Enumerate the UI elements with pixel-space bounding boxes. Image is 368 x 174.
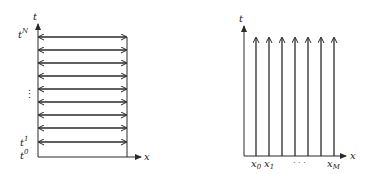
label-x1-sub: 1: [270, 163, 274, 171]
left-diagram: t x tN ⋮ t1 t0: [18, 11, 150, 162]
label-x1: x1: [264, 158, 274, 171]
label-x0: x0: [251, 158, 262, 171]
label-t0-sup: 0: [24, 148, 29, 156]
label-horizontal-ellipsis: · · ·: [293, 158, 306, 167]
label-tN-sup: N: [21, 27, 29, 35]
label-t0: t0: [20, 148, 29, 161]
spatial-node-arrows: [256, 38, 334, 156]
label-vertical-ellipsis: ⋮: [24, 88, 35, 101]
label-t1: t1: [20, 135, 29, 148]
label-t1-sup: 1: [24, 135, 28, 143]
label-tN: tN: [18, 27, 29, 40]
right-diagram: t x x0 x1 · · · xM: [239, 13, 356, 171]
left-x-axis-label: x: [144, 151, 150, 162]
time-level-arrows: [39, 37, 126, 142]
right-x-axis-label: x: [350, 150, 356, 161]
right-t-axis-label: t: [239, 13, 244, 24]
diagram-canvas: t x tN ⋮ t1 t0 t x x0 x1: [0, 0, 368, 174]
label-x0-sub: 0: [257, 163, 262, 171]
label-xM: xM: [327, 158, 341, 171]
left-t-axis-label: t: [33, 11, 38, 22]
label-xM-sub: M: [332, 163, 341, 171]
